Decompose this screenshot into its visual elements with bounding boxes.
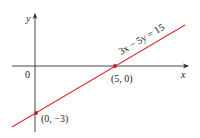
y-axis-label: y <box>25 13 31 24</box>
graph-canvas: y x 0 (5, 0) (0, −3) 3x − 5y = 15 <box>0 0 200 138</box>
point-y-intercept <box>34 111 38 115</box>
equation-label: 3x − 5y = 15 <box>116 21 166 57</box>
origin-label: 0 <box>25 69 30 80</box>
point-label-x-intercept: (5, 0) <box>111 73 133 85</box>
x-axis-label: x <box>180 69 186 80</box>
line-graph <box>12 25 185 127</box>
point-x-intercept <box>113 64 117 68</box>
point-label-y-intercept: (0, −3) <box>41 113 68 125</box>
